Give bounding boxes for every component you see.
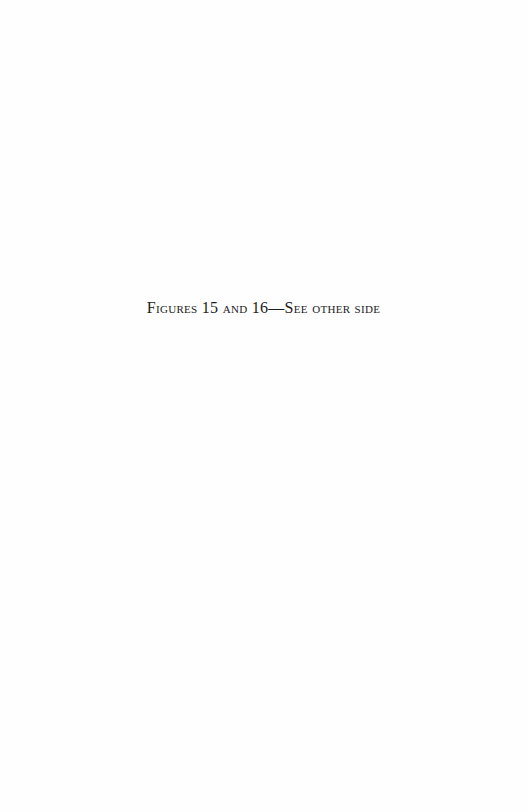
figure-reference-caption: Figures 15 and 16—See other side: [0, 299, 527, 317]
document-page: Figures 15 and 16—See other side: [0, 0, 527, 812]
